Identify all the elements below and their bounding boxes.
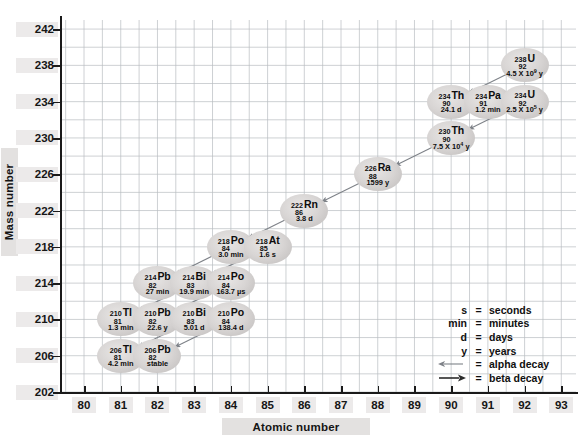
nuclide-po-214[interactable]: 21484Po163.7 µs [207,266,255,300]
nuclide-symbol: 21084Po [218,307,244,322]
x-tick-label: 92 [513,397,537,413]
half-life: 4.2 min [108,360,133,367]
x-tick-label: 87 [329,397,353,413]
element-symbol: Ra [378,162,391,173]
x-tick-label: 93 [549,397,573,413]
element-symbol: Pb [157,307,170,318]
nuclide-symbol: 21484Po [218,271,244,286]
half-life: 4.5 X 109 y [506,69,543,78]
legend-value: beta decay [485,372,543,384]
y-tick-mark [53,211,62,213]
x-tick-label: 86 [292,397,316,413]
y-tick-label: 242 [16,22,58,37]
legend-row: =beta decay [437,371,549,385]
element-symbol: Tl [123,307,132,318]
x-tick-label: 88 [366,397,390,413]
legend-row: =alpha decay [437,357,549,371]
element-symbol: At [269,235,280,246]
nuclide-symbol: 20681Tl [110,344,132,359]
legend-value: seconds [485,304,532,316]
half-life: stable [147,360,168,367]
decay-series-chart: Mass number Atomic number 20220621021421… [0,0,586,438]
y-tick-label: 202 [16,385,58,400]
element-symbol: Th [451,90,463,101]
half-life: 2.5 X 105 y [506,105,543,114]
y-tick-label: 218 [16,239,58,254]
x-tick-label: 91 [476,397,500,413]
nuclide-symbol: 20682Pb [144,344,170,359]
legend-row: d=days [437,330,549,344]
x-tick-label: 85 [256,397,280,413]
y-tick-label: 238 [16,58,58,73]
nuclide-pb-206[interactable]: 20682Pbstable [133,339,181,373]
nuclide-u-238[interactable]: 23892U4.5 X 109 y [501,48,549,82]
nuclide-symbol: 23490Th [438,90,463,105]
nuclide-th-230[interactable]: 23090Th7.5 X 104 y [427,121,475,155]
x-tick-label: 90 [439,397,463,413]
half-life: 5.01 d [184,324,205,331]
chart-legend: s=secondsmin=minutesd=daysy=years=alpha … [437,303,549,385]
legend-value: alpha decay [485,358,549,370]
half-life: 138.4 d [218,324,243,331]
legend-equals: = [472,358,485,370]
y-tick-mark [53,65,62,67]
nuclide-ra-226[interactable]: 22688Ra1599 y [354,157,402,191]
y-tick-label: 206 [16,348,58,363]
half-life: 7.5 X 104 y [433,142,470,151]
nuclide-symbol: 21083Bi [183,307,206,322]
half-life: 1.2 min [475,106,500,113]
element-symbol: Po [231,307,244,318]
legend-equals: = [472,345,485,357]
y-tick-mark [53,319,62,321]
nuclide-symbol: 21884Po [218,235,244,250]
x-tick-label: 81 [109,397,133,413]
beta-arrow-icon [437,371,472,385]
half-life: 1.3 min [108,324,133,331]
y-tick-label: 230 [16,130,58,145]
y-tick-mark [53,102,62,104]
legend-key: min [437,317,472,329]
half-life: 1.6 s [259,251,275,258]
x-axis-title: Atomic number [222,418,370,435]
y-tick-label: 222 [16,203,58,218]
element-symbol: Rn [304,199,318,210]
nuclide-symbol: 23491Pa [475,90,500,105]
y-tick-mark [53,392,62,394]
nuclide-symbol: 22688Ra [365,162,391,177]
nuclide-u-234[interactable]: 23492U2.5 X 105 y [501,85,549,119]
x-tick-label: 80 [72,397,96,413]
nuclide-symbol: 21483Bi [183,271,206,286]
legend-equals: = [472,304,485,316]
legend-value: days [485,331,513,343]
legend-key: y [437,345,472,357]
legend-equals: = [472,331,485,343]
legend-row: s=seconds [437,303,549,317]
legend-equals: = [472,372,485,384]
x-tick-label: 83 [182,397,206,413]
element-symbol: Bi [196,271,206,282]
y-tick-mark [53,174,62,176]
legend-value: years [485,345,516,357]
half-life: 3.0 min [218,251,243,258]
nuclide-rn-222[interactable]: 22286Rn3.8 d [280,194,328,228]
y-tick-label: 226 [16,167,58,182]
element-symbol: Pa [488,90,500,101]
nuclide-symbol: 21482Pb [144,271,170,286]
y-tick-label: 234 [16,94,58,109]
y-tick-mark [53,247,62,249]
nuclide-at-218[interactable]: 21885At1.6 s [244,230,292,264]
nuclide-symbol: 21885At [256,235,280,250]
element-symbol: Po [231,235,244,246]
element-symbol: Po [231,271,244,282]
element-symbol: U [527,53,534,64]
x-axis-line [60,392,578,394]
half-life: 19.9 min [179,288,209,295]
y-tick-label: 214 [16,276,58,291]
element-symbol: Bi [196,307,206,318]
legend-key: d [437,331,472,343]
nuclide-symbol: 23090Th [438,125,463,140]
legend-key: s [437,304,472,316]
y-tick-mark [53,283,62,285]
y-axis-title-text: Mass number [4,164,16,240]
element-symbol: Pb [157,344,170,355]
